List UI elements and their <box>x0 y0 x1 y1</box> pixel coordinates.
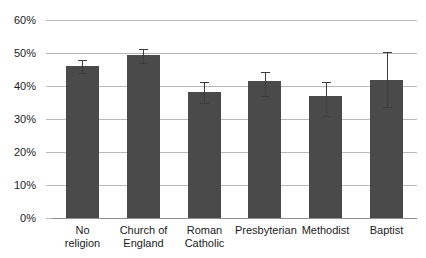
error-bar-stem <box>143 49 144 63</box>
y-axis-tick-label: 30% <box>0 114 36 125</box>
x-axis-category-label: Baptist <box>356 224 417 237</box>
x-axis-category-label: No religion <box>52 224 113 249</box>
x-axis-category-label: Methodist <box>295 224 356 237</box>
y-axis-tick-label: 10% <box>0 180 36 191</box>
bar <box>127 55 160 218</box>
gridline-20 <box>52 152 417 153</box>
gridline-40 <box>52 86 417 87</box>
error-bar-cap-upper <box>200 82 209 83</box>
y-axis-tick-label: 60% <box>0 15 36 26</box>
y-axis-tick-label: 20% <box>0 147 36 158</box>
y-axis-tick-label: 50% <box>0 48 36 59</box>
x-axis-category-label: Presbyterian <box>235 224 296 237</box>
y-axis-tick-label: 0% <box>0 213 36 224</box>
bar-chart: 0%10%20%30%40%50%60%No religionChurch of… <box>0 0 426 258</box>
error-bar-cap-upper <box>383 52 392 53</box>
error-bar-cap-upper <box>322 82 331 83</box>
y-tick-mark <box>46 185 52 186</box>
error-bar-cap-upper <box>139 49 148 50</box>
y-tick-mark <box>46 152 52 153</box>
error-bar-cap-lower <box>322 116 331 117</box>
y-tick-mark <box>46 53 52 54</box>
x-axis-line <box>52 218 417 219</box>
error-bar-cap-lower <box>78 73 87 74</box>
gridline-10 <box>52 185 417 186</box>
error-bar-cap-lower <box>139 63 148 64</box>
error-bar-stem <box>326 82 327 116</box>
gridline-60 <box>52 20 417 21</box>
bar <box>66 66 99 218</box>
plot-area: 0%10%20%30%40%50%60%No religionChurch of… <box>52 14 417 224</box>
error-bar-cap-upper <box>78 60 87 61</box>
gridline-30 <box>52 119 417 120</box>
x-axis-category-label: Church of England <box>113 224 174 249</box>
y-axis-tick-label: 40% <box>0 81 36 92</box>
error-bar-cap-lower <box>261 96 270 97</box>
gridline-50 <box>52 53 417 54</box>
error-bar-cap-lower <box>200 103 209 104</box>
error-bar-stem <box>265 72 266 96</box>
error-bar-cap-lower <box>383 107 392 108</box>
y-tick-mark <box>46 119 52 120</box>
error-bar-cap-upper <box>261 72 270 73</box>
y-tick-mark <box>46 86 52 87</box>
error-bar-stem <box>387 52 388 107</box>
y-tick-mark <box>46 20 52 21</box>
y-tick-mark <box>46 218 52 219</box>
bar <box>188 92 221 218</box>
error-bar-stem <box>82 60 83 73</box>
x-axis-category-label: Roman Catholic <box>174 224 235 249</box>
error-bar-stem <box>204 82 205 103</box>
bar <box>248 81 281 218</box>
